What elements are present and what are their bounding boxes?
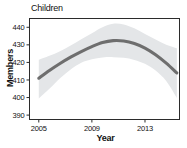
x-tick-label: 2009	[84, 124, 100, 133]
y-tick-label: 410	[13, 76, 25, 85]
y-tick-label: 420	[13, 58, 25, 67]
y-axis-ticks: 390400410420430440	[13, 23, 30, 120]
x-tick-label: 2005	[31, 124, 47, 133]
x-tick-label: 2013	[137, 124, 153, 133]
plot-area: 390400410420430440 200520092013	[0, 0, 187, 148]
confidence-band	[39, 24, 177, 99]
children-members-chart: Children Members Year 390400410420430440…	[0, 0, 187, 148]
y-tick-label: 400	[13, 93, 25, 102]
y-tick-label: 430	[13, 40, 25, 49]
y-tick-label: 440	[13, 23, 25, 32]
y-tick-label: 390	[13, 111, 25, 120]
x-axis-ticks: 200520092013	[31, 120, 153, 133]
